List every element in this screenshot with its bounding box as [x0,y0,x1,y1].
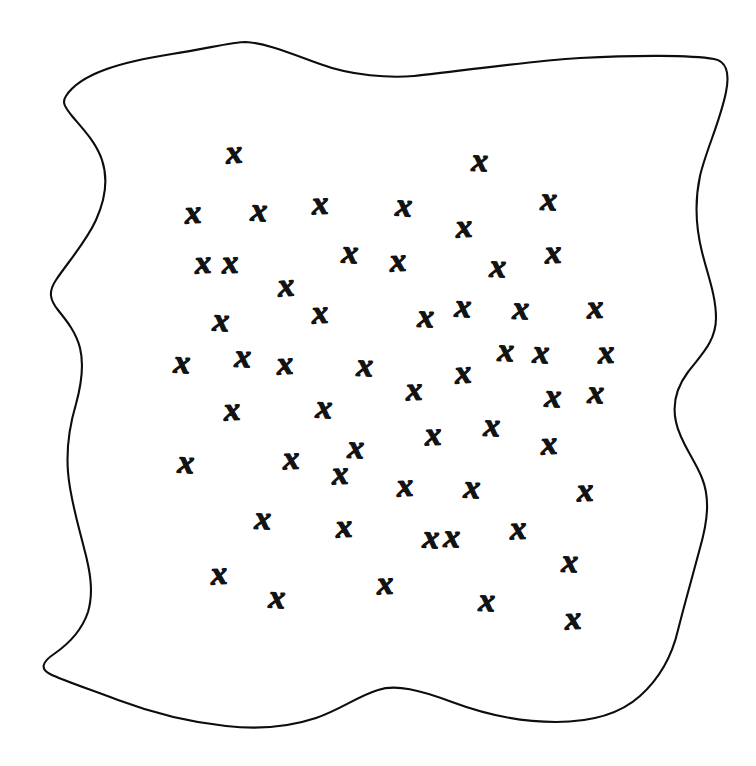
x-mark: x [575,472,594,509]
x-mark: x [585,289,604,326]
x-mark: x [275,345,294,382]
figure-canvas: xxxxxxxxxxxxxxxxxxxxxxxxxxxxxxxxxxxxxxxx… [0,0,756,766]
x-mark: x [395,467,414,504]
x-mark: x [183,194,202,231]
x-mark: x [310,294,329,331]
x-mark: x [249,192,268,229]
x-mark: x [388,242,407,279]
x-mark: x [220,244,239,281]
x-mark: x [404,371,423,408]
x-mark: x [276,266,296,303]
scatter-in-region-figure: xxxxxxxxxxxxxxxxxxxxxxxxxxxxxxxxxxxxxxxx… [0,0,756,766]
x-mark: x [539,425,558,462]
x-mark: x [193,244,212,281]
x-mark: x [539,181,558,218]
x-mark: x [355,347,374,384]
x-mark: x [454,208,473,245]
x-mark: x [563,600,582,637]
region-boundary-outline [44,42,728,728]
x-mark: x [267,579,286,616]
x-mark: x [416,298,435,335]
x-mark: x [346,429,365,466]
x-mark: x [209,555,228,592]
x-mark: x [330,455,349,492]
x-mark: x [470,142,489,179]
x-mark: x [375,565,394,602]
x-mark: x [560,543,579,580]
x-mark: x [543,234,562,271]
x-mark: x [224,133,244,170]
x-mark: x [511,290,530,327]
x-mark: x [334,508,353,545]
x-mark: x [442,518,461,555]
x-mark: x [543,378,562,415]
x-mark: x [462,469,481,506]
x-mark: x [172,344,191,381]
x-mark: x [488,248,507,285]
x-mark: x [394,186,414,223]
x-mark: x [482,407,501,444]
x-mark: x [222,391,241,428]
x-mark: x [453,288,472,325]
x-mark: x [176,444,195,481]
x-mark: x [496,332,515,369]
x-mark: x [253,500,272,537]
x-mark: x [281,440,300,477]
x-mark: x [421,519,440,556]
x-mark: x [477,582,496,619]
x-mark: x [586,374,605,411]
x-mark: x [211,302,230,339]
x-mark: x [596,334,615,371]
x-mark: x [423,416,442,453]
x-mark: x [508,510,527,547]
x-mark: x [310,185,329,222]
x-mark: x [340,234,359,271]
x-mark: x [453,353,473,390]
x-mark: x [233,338,252,375]
x-mark: x [531,334,550,371]
x-mark: x [314,389,333,426]
